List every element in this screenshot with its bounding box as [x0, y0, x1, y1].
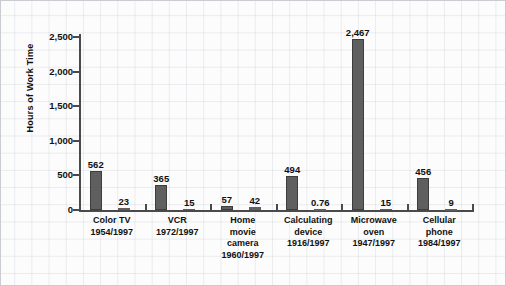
- chart-canvas: Hours of Work Time 05001,0001,5002,0002,…: [0, 0, 506, 286]
- bar[interactable]: [286, 176, 298, 210]
- bar[interactable]: [90, 171, 102, 210]
- y-axis-tick-label: 0: [37, 204, 73, 215]
- bar-value-label: 15: [364, 197, 408, 208]
- y-axis-tick-label: 1,000: [37, 135, 73, 146]
- bar[interactable]: [417, 178, 429, 210]
- bar[interactable]: [221, 206, 233, 210]
- y-axis-tick-label: 500: [37, 169, 73, 180]
- y-axis-title: Hours of Work Time: [25, 13, 35, 163]
- y-axis-tick-label: 2,500: [37, 31, 73, 42]
- bar[interactable]: [314, 209, 326, 211]
- bar[interactable]: [183, 209, 195, 211]
- bar-value-label: 365: [139, 173, 183, 184]
- y-axis-tick: [73, 105, 81, 107]
- bar[interactable]: [118, 208, 130, 210]
- y-axis-tick: [73, 71, 81, 73]
- y-axis-tick: [73, 36, 81, 38]
- bar[interactable]: [249, 207, 261, 210]
- y-axis-tick: [73, 174, 81, 176]
- y-axis-tick-label: 2,000: [37, 66, 73, 77]
- bar-value-label: 2,467: [336, 27, 380, 38]
- bar-value-label: 562: [74, 159, 118, 170]
- bar[interactable]: [445, 209, 457, 211]
- y-axis-tick: [73, 209, 81, 211]
- x-axis-category-label: Cellular phone 1984/1997: [400, 215, 480, 250]
- bar-value-label: 23: [102, 196, 146, 207]
- bar-value-label: 456: [401, 166, 445, 177]
- y-axis-tick: [73, 140, 81, 142]
- bar[interactable]: [380, 209, 392, 211]
- bar-value-label: 0.76: [298, 197, 342, 208]
- bar-value-label: 494: [270, 164, 314, 175]
- y-axis-line: [79, 34, 81, 212]
- bar[interactable]: [352, 39, 364, 210]
- y-axis-tick-label: 1,500: [37, 100, 73, 111]
- bar-value-label: 42: [233, 195, 277, 206]
- bar[interactable]: [155, 185, 167, 210]
- bar-value-label: 9: [429, 197, 473, 208]
